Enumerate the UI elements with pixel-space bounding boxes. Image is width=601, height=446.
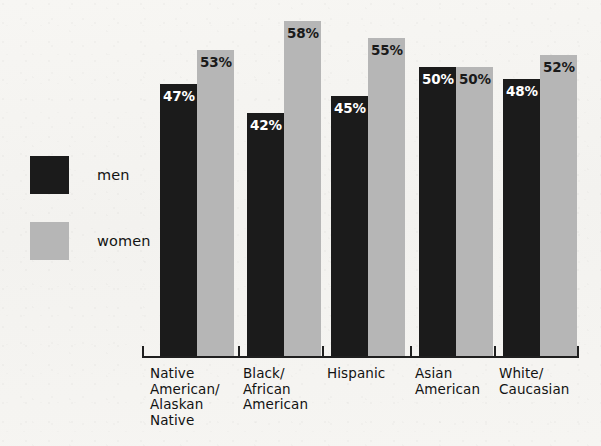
bar-value-women-3: 50% — [459, 71, 491, 87]
bar-men-3 — [419, 67, 456, 356]
bar-value-women-2: 55% — [371, 42, 403, 58]
bar-value-women-0: 53% — [200, 54, 232, 70]
bar-value-men-1: 42% — [250, 117, 282, 133]
category-label-1: Black/ African American — [243, 366, 308, 413]
bar-chart: men women 47%53%42%58%45%55%50%50%48%52%… — [0, 0, 601, 446]
bar-men-2 — [331, 96, 368, 356]
category-label-3: Asian American — [415, 366, 480, 397]
bar-value-women-1: 58% — [287, 25, 319, 41]
bar-value-men-2: 45% — [334, 100, 366, 116]
bar-women-4 — [540, 55, 577, 356]
bar-value-men-4: 48% — [506, 83, 538, 99]
bar-men-1 — [247, 113, 284, 356]
axis-tick-4 — [494, 346, 496, 357]
bar-men-4 — [503, 79, 540, 356]
axis-tick-2 — [322, 346, 324, 357]
plot-area: 47%53%42%58%45%55%50%50%48%52%Native Ame… — [0, 0, 601, 446]
axis-baseline — [142, 356, 579, 358]
axis-tick-5 — [577, 346, 579, 357]
axis-tick-0 — [142, 346, 144, 357]
category-label-2: Hispanic — [327, 366, 385, 382]
bar-women-1 — [284, 21, 321, 356]
bar-value-men-0: 47% — [163, 88, 195, 104]
bar-men-0 — [160, 84, 197, 356]
axis-tick-1 — [238, 346, 240, 357]
bar-women-2 — [368, 38, 405, 356]
category-label-0: Native American/ Alaskan Native — [150, 366, 220, 428]
bar-value-men-3: 50% — [422, 71, 454, 87]
bar-women-3 — [456, 67, 493, 356]
bar-value-women-4: 52% — [543, 59, 575, 75]
bar-women-0 — [197, 50, 234, 356]
category-label-4: White/ Caucasian — [499, 366, 569, 397]
axis-tick-3 — [410, 346, 412, 357]
